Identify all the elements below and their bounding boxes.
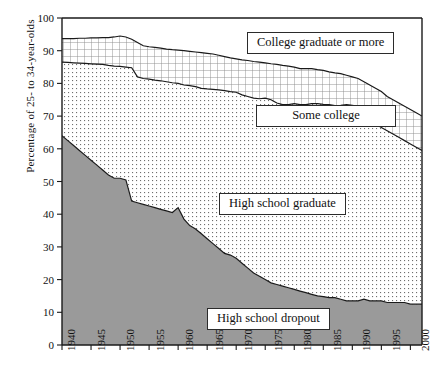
y-tick-label: 30 (43, 242, 54, 253)
chart-figure: Percentage of 25- to 34-year-olds 100 90… (0, 0, 435, 391)
y-tick-label: 90 (43, 46, 54, 57)
y-tick-label: 40 (43, 209, 54, 220)
legend-college-graduate: College graduate or more (247, 32, 394, 54)
y-tick-label: 0 (49, 340, 55, 351)
x-tick-label: 1945 (96, 329, 107, 351)
x-tick-label: 1955 (155, 329, 166, 351)
x-tick-label: 1975 (273, 329, 284, 351)
x-tick-label: 1990 (361, 329, 372, 351)
y-axis-tick-labels: 100 90 80 70 60 50 40 30 20 10 0 (28, 0, 54, 391)
x-tick-label: 1980 (302, 329, 313, 351)
x-tick-label: 1940 (66, 329, 77, 351)
x-tick-label: 1965 (214, 329, 225, 351)
legend-high-school-graduate: High school graduate (219, 193, 346, 215)
legend-high-school-dropout: High school dropout (207, 308, 330, 330)
y-tick-label: 60 (43, 144, 54, 155)
x-tick-label: 1970 (243, 329, 254, 351)
x-tick-label: 2000 (420, 329, 431, 351)
x-tick-label: 1960 (184, 329, 195, 351)
y-tick-label: 20 (43, 275, 54, 286)
y-tick-label: 100 (38, 13, 55, 24)
y-tick-label: 50 (43, 177, 54, 188)
x-tick-label: 1950 (125, 329, 136, 351)
x-tick-label: 1985 (332, 329, 343, 351)
y-tick-label: 10 (43, 307, 54, 318)
x-tick-label: 1995 (391, 329, 402, 351)
y-tick-label: 80 (43, 78, 54, 89)
y-tick-label: 70 (43, 111, 54, 122)
legend-some-college: Some college (256, 105, 396, 127)
